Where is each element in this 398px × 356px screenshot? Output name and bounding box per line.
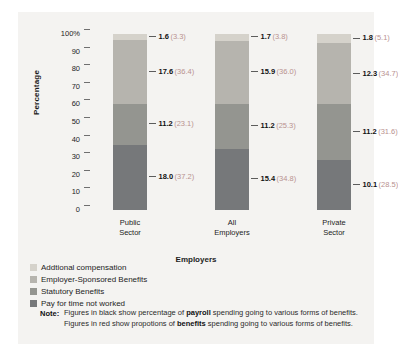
benefits-proportion-value: (34.7) (379, 69, 398, 78)
bar-segment (113, 104, 147, 145)
x-axis-category-line: Sector (299, 228, 369, 238)
bar-segment (113, 145, 147, 210)
y-axis-tick: 10 (36, 188, 80, 196)
payroll-percentage-value: 1.7 (261, 32, 271, 41)
y-axis-tick-mark (84, 99, 90, 100)
label-leader-line (353, 184, 360, 185)
bar-data-label: 12.3(34.7) (353, 70, 398, 78)
y-axis-tick-mark (84, 47, 90, 48)
x-axis-category-line: Sector (95, 228, 165, 238)
y-axis-tick: 30 (36, 153, 80, 161)
note: Note: Figures in black show percentage o… (40, 308, 370, 329)
y-axis-tick: 0 (36, 206, 80, 214)
legend-swatch (30, 264, 37, 271)
bar-segment (317, 104, 351, 160)
bar-segment (215, 104, 249, 149)
note-line-1: Figures in black show percentage of payr… (64, 308, 358, 319)
stacked-bar (113, 34, 147, 210)
benefits-proportion-value: (5.1) (374, 33, 389, 42)
stacked-bar (215, 34, 249, 210)
y-axis-tick: 90 (36, 48, 80, 56)
label-leader-line (149, 71, 156, 72)
bar-segment (317, 34, 351, 43)
note-line-2-post: spending going to various forms of benef… (206, 319, 353, 328)
plot-area: Percentage 100%9080706050403020100 1.6(3… (18, 12, 374, 212)
label-leader-line (251, 71, 258, 72)
bar-data-label: 1.7(3.8) (251, 33, 288, 41)
y-axis-tick: 70 (36, 83, 80, 91)
benefits-proportion-value: (36.0) (277, 67, 297, 76)
bar-segment (317, 43, 351, 104)
payroll-percentage-value: 11.2 (363, 127, 377, 136)
x-axis-category-line: Employers (197, 228, 267, 238)
label-leader-line (149, 176, 156, 177)
label-leader-line (353, 73, 360, 74)
label-leader-line (251, 178, 258, 179)
x-axis-category-line: Private (299, 218, 369, 228)
benefits-proportion-value: (34.8) (277, 174, 297, 183)
legend-item-label: Statutory Benefits (41, 288, 104, 296)
legend-item-label: Employer-Sponsored Benefits (41, 276, 147, 284)
note-line-1-bold: payroll (186, 308, 211, 317)
benefits-proportion-value: (3.8) (272, 32, 287, 41)
bar-data-label: 18.0(37.2) (149, 173, 194, 181)
y-axis-tick: 40 (36, 136, 80, 144)
legend-item-label: Addtional compensation (41, 264, 126, 272)
bar-data-label: 1.8(5.1) (353, 34, 390, 42)
legend-swatch (30, 300, 37, 307)
x-axis-category-line: All (197, 218, 267, 228)
benefits-proportion-value: (31.6) (378, 127, 398, 136)
legend-item: Addtional compensation (30, 262, 147, 273)
x-axis-category-label: PublicSector (95, 218, 165, 237)
payroll-percentage-value: 1.6 (159, 32, 169, 41)
note-line-1-post: spending going to various forms of benef… (211, 308, 358, 317)
bar-data-label: 11.2(31.6) (353, 128, 398, 136)
note-label: Note: (40, 308, 64, 329)
payroll-percentage-value: 11.2 (261, 121, 275, 130)
bar-data-label: 11.2(25.3) (251, 122, 296, 130)
x-axis-category-label: PrivateSector (299, 218, 369, 237)
y-axis-tick: 100% (36, 30, 80, 38)
bar-data-label: 11.2(23.1) (149, 120, 194, 128)
y-axis-tick: 50 (36, 118, 80, 126)
bar-segment (215, 41, 249, 104)
y-axis-tick-mark (84, 29, 90, 30)
note-text: Figures in black show percentage of payr… (64, 308, 358, 329)
y-axis-tick-mark (84, 82, 90, 83)
label-leader-line (353, 131, 360, 132)
benefits-proportion-value: (36.4) (175, 67, 195, 76)
y-axis-tick-mark (84, 152, 90, 153)
benefits-proportion-value: (37.2) (175, 172, 195, 181)
benefits-proportion-value: (3.3) (170, 32, 185, 41)
legend-item-label: Pay for time not worked (41, 300, 125, 308)
payroll-percentage-value: 10.1 (363, 180, 378, 189)
label-leader-line (149, 36, 156, 37)
y-axis-tick-mark (84, 170, 90, 171)
note-line-2-pre: Figures in red show propotions of (64, 319, 177, 328)
stacked-bar (317, 34, 351, 210)
chart-panel: Percentage 100%9080706050403020100 1.6(3… (18, 12, 374, 344)
bar-segment (113, 40, 147, 104)
label-leader-line (149, 123, 156, 124)
y-axis-tick-mark (84, 135, 90, 136)
bar-data-label: 10.1(28.5) (353, 181, 398, 189)
y-axis-tick-mark (84, 187, 90, 188)
y-axis-tick: 60 (36, 100, 80, 108)
bar-data-label: 15.4(34.8) (251, 175, 296, 183)
payroll-percentage-value: 18.0 (159, 172, 174, 181)
label-leader-line (251, 125, 258, 126)
note-line-1-pre: Figures in black show percentage of (64, 308, 186, 317)
benefits-proportion-value: (28.5) (379, 180, 398, 189)
bar-data-label: 1.6(3.3) (149, 33, 186, 41)
bar-segment (317, 160, 351, 210)
benefits-proportion-value: (23.1) (174, 119, 194, 128)
bar-data-label: 15.9(36.0) (251, 68, 296, 76)
bar-segment (215, 149, 249, 210)
legend-swatch (30, 288, 37, 295)
y-axis-tick-mark (84, 64, 90, 65)
label-leader-line (251, 36, 258, 37)
legend: Addtional compensationEmployer-Sponsored… (30, 262, 147, 310)
payroll-percentage-value: 1.8 (363, 33, 373, 42)
payroll-percentage-value: 11.2 (159, 119, 173, 128)
bar-data-label: 17.6(36.4) (149, 68, 194, 76)
